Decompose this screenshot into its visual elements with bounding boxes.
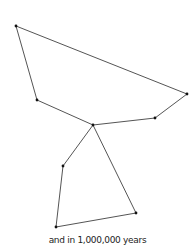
star-point bbox=[92, 124, 95, 127]
constellation-line bbox=[93, 125, 136, 213]
star-point bbox=[15, 25, 18, 28]
constellation-lines bbox=[16, 26, 187, 227]
constellation-line bbox=[155, 94, 187, 118]
constellation-stars bbox=[15, 25, 189, 229]
constellation-line bbox=[37, 100, 93, 125]
star-point bbox=[154, 117, 157, 120]
star-point bbox=[186, 93, 189, 96]
constellation-line bbox=[16, 26, 37, 100]
star-point bbox=[55, 226, 58, 229]
star-point bbox=[62, 165, 65, 168]
diagram-caption: and in 1,000,000 years bbox=[0, 235, 195, 245]
constellation-line bbox=[56, 213, 136, 227]
constellation-diagram bbox=[0, 0, 195, 247]
constellation-line bbox=[93, 118, 155, 125]
star-point bbox=[36, 99, 39, 102]
constellation-line bbox=[63, 125, 93, 166]
constellation-line bbox=[56, 166, 63, 227]
star-point bbox=[135, 212, 138, 215]
constellation-line bbox=[16, 26, 187, 94]
